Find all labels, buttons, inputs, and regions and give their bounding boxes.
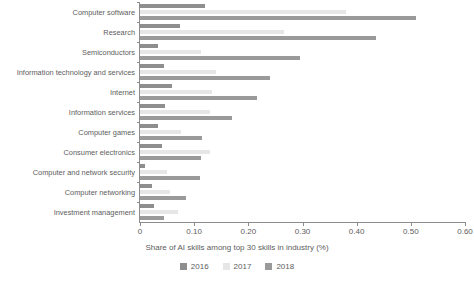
legend-item-2018[interactable]: 2018 [265,262,294,271]
x-axis-tick-label: 0.20 [228,227,268,236]
x-axis-tick [411,222,412,226]
category-label: Computer networking [3,182,135,202]
category-label: Computer games [3,122,135,142]
category-row: Semiconductors [140,42,465,62]
category-row: Computer games [140,122,465,142]
legend-swatch-icon [265,263,272,270]
legend-swatch-icon [223,263,230,270]
bar-chart: Computer softwareResearchSemiconductorsI… [0,0,474,285]
x-axis-tick-label: 0 [120,227,160,236]
x-axis-tick [194,222,195,226]
x-axis-tick [465,222,466,226]
bar-2017 [140,210,178,214]
bar-2017 [140,70,216,74]
bar-2017 [140,10,346,14]
plot-area: Computer softwareResearchSemiconductorsI… [140,2,465,222]
bar-2016 [140,184,152,188]
category-row: Information technology and services [140,62,465,82]
bar-2018 [140,96,257,100]
category-label: Investment management [3,202,135,222]
legend-item-2016[interactable]: 2016 [180,262,209,271]
x-axis-tick-label: 0.60 [445,227,474,236]
bar-2017 [140,50,201,54]
bar-2018 [140,76,270,80]
x-axis-tick-label: 0.50 [391,227,431,236]
bar-2017 [140,30,284,34]
category-row: Computer networking [140,182,465,202]
legend-label: 2018 [276,262,294,271]
bar-2016 [140,44,158,48]
legend-label: 2016 [191,262,209,271]
bar-2016 [140,104,165,108]
category-label: Information services [3,102,135,122]
category-row: Investment management [140,202,465,222]
category-label: Internet [3,82,135,102]
legend-swatch-icon [180,263,187,270]
bar-2016 [140,4,205,8]
bar-2018 [140,56,300,60]
chart-legend: 201620172018 [0,262,474,271]
bar-2018 [140,176,200,180]
bar-2018 [140,156,201,160]
bar-2018 [140,196,186,200]
category-row: Internet [140,82,465,102]
bar-2018 [140,16,416,20]
x-axis-tick-label: 0.30 [283,227,323,236]
x-axis-tick-label: 0.40 [337,227,377,236]
category-label: Computer software [3,2,135,22]
category-row: Computer software [140,2,465,22]
bar-2017 [140,110,210,114]
bar-2016 [140,124,158,128]
x-axis-tick [303,222,304,226]
x-axis-tick [357,222,358,226]
bar-2016 [140,24,180,28]
category-row: Consumer electronics [140,142,465,162]
bar-2016 [140,84,172,88]
bar-2016 [140,144,162,148]
bar-2016 [140,164,145,168]
x-axis-tick [248,222,249,226]
bar-2016 [140,204,154,208]
category-label: Semiconductors [3,42,135,62]
bar-2018 [140,36,376,40]
category-label: Research [3,22,135,42]
bar-2018 [140,136,202,140]
category-row: Computer and network security [140,162,465,182]
legend-item-2017[interactable]: 2017 [223,262,252,271]
bar-2017 [140,170,167,174]
bar-2016 [140,64,164,68]
category-label: Information technology and services [3,62,135,82]
bar-2017 [140,190,170,194]
bar-2017 [140,130,181,134]
bar-2017 [140,90,212,94]
x-axis-title: Share of AI skills among top 30 skills i… [0,243,474,252]
category-label: Consumer electronics [3,142,135,162]
category-row: Research [140,22,465,42]
legend-label: 2017 [234,262,252,271]
x-axis-tick [140,222,141,226]
bar-2017 [140,150,210,154]
category-row: Information services [140,102,465,122]
category-label: Computer and network security [3,162,135,182]
bar-2018 [140,116,232,120]
x-axis-tick-label: 0.10 [174,227,214,236]
bar-2018 [140,216,164,220]
